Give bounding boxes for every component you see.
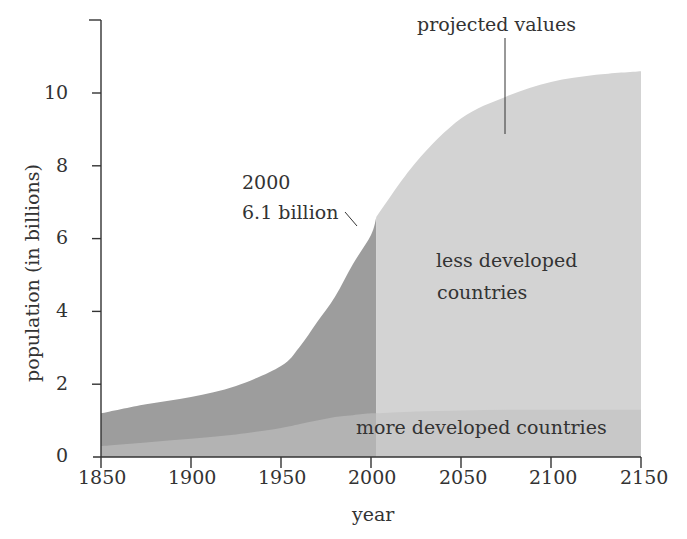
- x-tick-1950: 1950: [258, 466, 306, 488]
- x-tick-1850: 1850: [78, 466, 126, 488]
- y-tick-10: 10: [44, 81, 68, 103]
- x-tick-2150: 2150: [620, 466, 668, 488]
- annotation-more-developed: more developed countries: [356, 415, 607, 439]
- population-chart: [0, 0, 687, 539]
- leader-2000: [345, 212, 357, 226]
- x-tick-2000: 2000: [348, 466, 396, 488]
- y-axis-title: population (in billions): [21, 163, 43, 383]
- annotation-projected-values: projected values: [417, 12, 576, 36]
- x-axis-title: year: [352, 503, 394, 525]
- y-tick-8: 8: [56, 154, 68, 176]
- x-tick-2100: 2100: [529, 466, 577, 488]
- annotation-2000-value: 6.1 billion: [242, 200, 338, 224]
- x-tick-1900: 1900: [168, 466, 216, 488]
- y-tick-4: 4: [56, 299, 68, 321]
- annotation-less-developed-line2: countries: [437, 280, 527, 304]
- y-tick-6: 6: [56, 226, 68, 248]
- annotation-less-developed-line1: less developed: [436, 248, 577, 272]
- y-tick-2: 2: [56, 372, 68, 394]
- y-tick-0: 0: [56, 444, 68, 466]
- annotation-2000-year: 2000: [242, 170, 290, 194]
- x-tick-2050: 2050: [439, 466, 487, 488]
